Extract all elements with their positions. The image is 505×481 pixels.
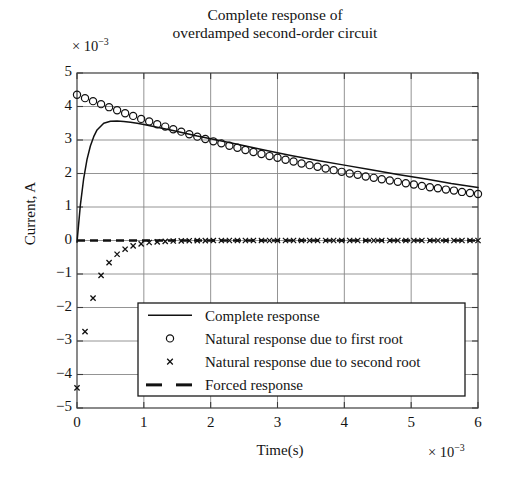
marker-circle: [122, 110, 129, 117]
marker-circle: [394, 178, 401, 185]
marker-cross: [131, 243, 136, 248]
x-tick-label: 6: [463, 414, 493, 431]
x-axis-label: Time(s): [200, 442, 360, 459]
marker-circle: [442, 186, 449, 193]
legend-label: Natural response due to first root: [205, 331, 404, 347]
x-tick-label: 2: [196, 414, 226, 431]
marker-circle: [234, 144, 241, 151]
y-axis-multiplier-exponent: −3: [98, 36, 108, 47]
x-tick-label: 5: [396, 414, 426, 431]
marker-circle: [378, 176, 385, 183]
marker-circle: [458, 188, 465, 195]
y-tick-label: 3: [38, 130, 72, 147]
marker-circle: [362, 173, 369, 180]
y-axis-multiplier-base: × 10: [72, 38, 98, 54]
y-tick-label: 1: [38, 197, 72, 214]
marker-circle: [114, 107, 121, 114]
marker-cross: [115, 252, 120, 257]
marker-circle: [242, 146, 249, 153]
y-tick-label: 5: [38, 63, 72, 80]
marker-circle: [298, 160, 305, 167]
marker-circle: [314, 163, 321, 170]
y-tick-label: 2: [38, 164, 72, 181]
marker-circle: [266, 152, 273, 159]
marker-circle: [322, 165, 329, 172]
marker-circle: [426, 184, 433, 191]
marker-circle: [290, 158, 297, 165]
y-axis-multiplier: × 10−3: [72, 36, 109, 55]
marker-cross: [123, 247, 128, 252]
y-tick-label: −4: [38, 365, 72, 382]
marker-cross: [90, 296, 95, 301]
marker-circle: [146, 118, 153, 125]
marker-circle: [202, 135, 209, 142]
x-tick-label: 3: [263, 414, 293, 431]
marker-circle: [402, 180, 409, 187]
marker-circle: [434, 185, 441, 192]
x-axis-multiplier-base: × 10: [428, 444, 454, 460]
x-tick-label: 4: [329, 414, 359, 431]
marker-cross: [163, 239, 168, 244]
marker-circle: [450, 187, 457, 194]
marker-circle: [89, 98, 96, 105]
marker-circle: [354, 171, 361, 178]
y-tick-label: 4: [38, 97, 72, 114]
marker-circle: [250, 148, 257, 155]
x-tick-label: 0: [62, 414, 92, 431]
marker-cross: [98, 273, 103, 278]
marker-circle: [130, 112, 137, 119]
marker-circle: [258, 150, 265, 157]
marker-circle: [370, 174, 377, 181]
chart-title-line-1: Complete response of: [110, 6, 440, 24]
marker-cross: [82, 329, 87, 334]
marker-circle: [386, 177, 393, 184]
marker-circle: [306, 162, 313, 169]
marker-cross: [139, 241, 144, 246]
marker-circle: [81, 95, 88, 102]
marker-circle: [282, 156, 289, 163]
plot-canvas: Complete responseNatural response due to…: [0, 0, 505, 481]
legend-label: Natural response due to second root: [205, 354, 421, 370]
chart-title-line-2: overdamped second-order circuit: [110, 24, 440, 42]
y-tick-label: −5: [38, 398, 72, 415]
y-tick-label-group: 543210−1−2−3−4−5: [34, 0, 72, 481]
x-tick-label: 1: [129, 414, 159, 431]
y-tick-label: −2: [38, 298, 72, 315]
y-tick-label: −3: [38, 331, 72, 348]
y-tick-label: −1: [38, 264, 72, 281]
marker-circle: [466, 189, 473, 196]
marker-circle: [418, 182, 425, 189]
x-axis-multiplier: × 10−3: [428, 442, 465, 461]
marker-circle: [105, 104, 112, 111]
marker-circle: [330, 167, 337, 174]
chart-title: Complete response of overdamped second-o…: [110, 6, 440, 43]
legend-label: Forced response: [205, 377, 303, 393]
y-tick-label: 0: [38, 231, 72, 248]
marker-cross: [106, 260, 111, 265]
legend-label: Complete response: [205, 308, 320, 324]
x-axis-multiplier-exponent: −3: [454, 442, 464, 453]
figure-container: Complete response of overdamped second-o…: [0, 0, 505, 481]
